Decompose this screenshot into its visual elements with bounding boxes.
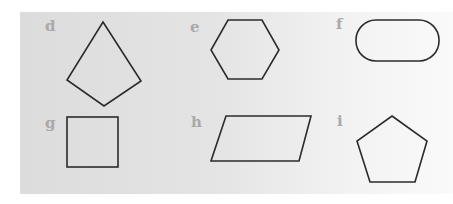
oval-shape [356, 20, 439, 61]
kite-shape [67, 22, 141, 106]
square-shape [67, 117, 118, 167]
hexagon-shape [211, 20, 279, 79]
parallelogram-shape [211, 116, 311, 161]
shapes-canvas [0, 0, 453, 204]
pentagon-shape [357, 116, 427, 182]
